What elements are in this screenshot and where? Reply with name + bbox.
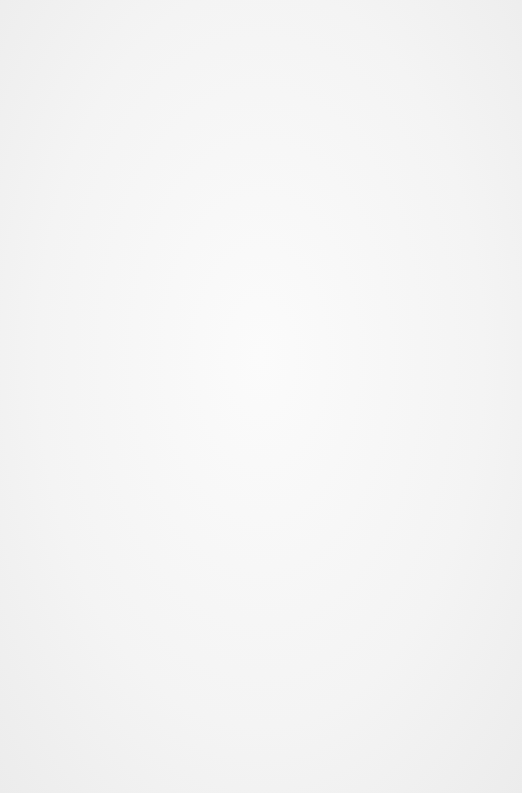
lined-paper-sheet [0, 0, 522, 793]
